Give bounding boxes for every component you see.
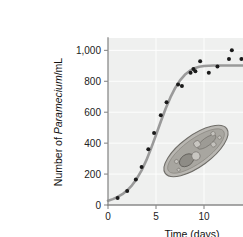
y-tick-label: 800 [84, 76, 101, 87]
plot-area-background [108, 38, 243, 205]
data-point [189, 71, 193, 75]
data-point [230, 48, 234, 52]
x-tick-label: 0 [105, 211, 111, 222]
y-axis-title-prefix: Number of [52, 134, 64, 186]
chart-screenshot: 02004006008001,000 051015 Number of Para… [0, 0, 243, 237]
data-point [176, 82, 180, 86]
data-point [116, 196, 120, 200]
data-point [193, 69, 197, 73]
y-axis-ticks: 02004006008001,000 [76, 45, 108, 211]
x-axis-title: Time (days) [164, 228, 219, 237]
y-axis-title-italic-taxon: Paramecium [52, 75, 64, 134]
data-point [125, 189, 129, 193]
data-point [140, 165, 144, 169]
y-tick-label: 0 [95, 200, 101, 211]
data-point [180, 84, 184, 88]
x-tick-label: 5 [153, 211, 159, 222]
x-tick-label: 10 [198, 211, 210, 222]
data-point [146, 147, 150, 151]
data-point [159, 113, 163, 117]
y-tick-label: 600 [84, 107, 101, 118]
data-point [215, 65, 219, 69]
data-point [227, 57, 231, 61]
y-tick-label: 200 [84, 169, 101, 180]
data-point [207, 71, 211, 75]
y-tick-label: 1,000 [76, 45, 101, 56]
y-tick-label: 400 [84, 138, 101, 149]
data-point [165, 100, 169, 104]
y-axis-title-suffix: /mL [52, 58, 64, 76]
data-point [134, 177, 138, 181]
data-point [152, 131, 156, 135]
x-axis-ticks: 051015 [105, 205, 243, 222]
paramecium-growth-chart: 02004006008001,000 051015 Number of Para… [40, 16, 243, 237]
data-point [198, 59, 202, 63]
y-axis-title: Number of Paramecium/mL [52, 58, 64, 187]
chart-canvas: 02004006008001,000 051015 Number of Para… [40, 16, 243, 237]
